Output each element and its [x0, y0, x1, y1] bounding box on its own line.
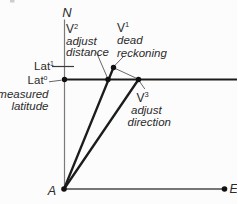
lat0-axis-point: [62, 77, 67, 82]
v1-caption-line2: reckoning: [117, 47, 167, 59]
diagram-svg: N A E V2 adjust distance V1 dead reckoni…: [0, 0, 237, 204]
v3-label: V3: [137, 90, 149, 105]
dead-reckoning-diagram: N A E V2 adjust distance V1 dead reckoni…: [0, 0, 237, 204]
east-axis-label: E: [230, 182, 238, 196]
v1-dead-reckoning-point: [111, 65, 116, 70]
lat1-label: Lat1: [34, 60, 54, 72]
cropped-print-artifact: [10, 0, 15, 3]
north-axis-label: N: [62, 5, 72, 20]
v1-caption-line1: dead: [117, 34, 143, 46]
v2-adjust-distance-point: [105, 77, 110, 82]
lat0-caption-line2: latitude: [11, 100, 48, 112]
lat0-caption-line1: measured: [0, 88, 49, 100]
v3-adjust-direction-point: [136, 77, 141, 82]
east-e-point: [222, 186, 228, 192]
v2-caption-line2: distance: [66, 46, 109, 58]
leader-lat0-to-point: [49, 80, 62, 82]
origin-a-point: [61, 186, 67, 192]
v3-caption-line1: adjust: [131, 104, 162, 116]
lat0-label: Lato: [28, 74, 48, 86]
leader-v3-label-to-point: [140, 81, 145, 89]
v1-label: V1: [117, 20, 129, 35]
v1-to-v3-connector-line: [114, 68, 138, 79]
v3-caption-line2: direction: [128, 116, 171, 128]
origin-a-label: A: [47, 184, 56, 198]
